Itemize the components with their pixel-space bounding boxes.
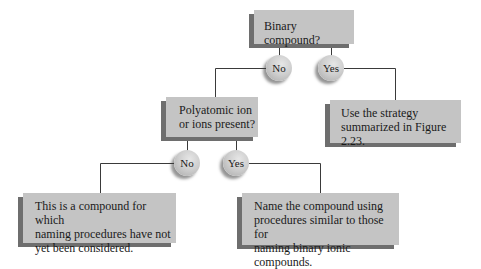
result-name-compound: Name the compound using procedures simil…	[242, 193, 399, 245]
answer-yes-label-2: Yes	[228, 157, 244, 169]
answer-yes-circle: Yes	[318, 55, 344, 81]
question-polyatomic-ion: Polyatomic ion or ions present?	[166, 97, 258, 137]
answer-no-circle: No	[266, 55, 292, 81]
result-use-strategy: Use the strategy summarized in Figure 2.…	[330, 100, 461, 143]
answer-yes-circle-2: Yes	[223, 150, 249, 176]
answer-no-label-2: No	[180, 157, 193, 169]
answer-yes-label: Yes	[323, 62, 339, 74]
answer-no-label: No	[272, 62, 285, 74]
question-polyatomic-ion-label: Polyatomic ion or ions present?	[179, 103, 255, 131]
answer-no-circle-2: No	[174, 150, 200, 176]
result-not-yet-considered: This is a compound for which naming proc…	[23, 193, 176, 243]
question-binary-compound: Binary compound?	[254, 10, 354, 44]
result-use-strategy-label: Use the strategy summarized in Figure 2.…	[341, 106, 446, 148]
question-binary-compound-label: Binary compound?	[264, 19, 320, 47]
